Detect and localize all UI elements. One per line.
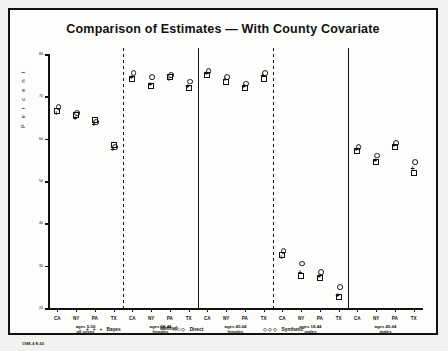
data-point-synthetic [412,159,418,165]
y-tick-label: 20 [39,306,43,310]
data-point-direct [148,83,154,89]
data-point-synthetic [168,72,174,78]
x-tick [282,308,283,312]
data-point-synthetic [112,144,118,150]
data-point-direct [373,159,379,165]
data-point-synthetic [74,110,80,116]
data-point-direct [317,275,323,281]
panel-separator [273,48,274,308]
y-tick [45,96,49,98]
footnote: 1988-4 N-65 [22,342,44,346]
x-tick [414,308,415,312]
x-tick [170,308,171,312]
x-tick-label-ny: NY [298,316,304,321]
x-tick [376,308,377,312]
chart-screenshot: Comparison of Estimates — With County Co… [0,0,448,351]
x-tick-label-ca: CA [279,316,286,321]
x-tick-label-ny: NY [148,316,154,321]
x-tick-label-pa: PA [167,316,173,321]
x-tick-label-tx: TX [411,316,417,321]
x-tick-label-ca: CA [54,316,61,321]
data-point-synthetic [374,153,380,159]
legend-label-bayes: Bayes [107,327,121,332]
legend-item-synthetic[interactable]: ◇◇◇Synthetic [263,326,303,332]
data-point-synthetic [262,70,268,76]
y-axis-label: P e r c e n t [20,69,26,128]
data-point-synthetic [206,68,212,74]
x-tick [301,308,302,312]
data-point-synthetic [224,74,230,80]
x-tick [57,308,58,312]
data-point-synthetic [131,70,137,76]
x-tick [114,308,115,312]
y-tick-label: 60 [39,137,43,141]
x-tick [76,308,77,312]
x-tick-label-tx: TX [186,316,192,321]
data-point-direct [336,294,342,300]
x-tick [264,308,265,312]
y-tick [45,266,49,268]
y-tick [45,223,49,225]
x-tick-label-ca: CA [204,316,211,321]
chart-title: Comparison of Estimates — With County Co… [10,22,436,36]
x-tick-label-pa: PA [92,316,98,321]
panel-separator [198,48,199,308]
plot-area: 20304050607080 CANYPATXCANYPATXCANYPATXC… [48,54,423,308]
data-point-synthetic [318,269,324,275]
x-tick [226,308,227,312]
x-tick [320,308,321,312]
x-tick-label-ny: NY [373,316,379,321]
data-point-synthetic [56,104,62,110]
x-tick [395,308,396,312]
x-tick-label-tx: TX [111,316,117,321]
data-point-synthetic [187,79,193,85]
x-tick-label-tx: TX [336,316,342,321]
data-point-synthetic [93,119,99,125]
data-point-direct [261,76,267,82]
panel-separator [123,48,124,308]
x-tick [132,308,133,312]
legend-label-synthetic: Synthetic [282,327,304,332]
data-point-synthetic [299,261,305,267]
x-tick [245,308,246,312]
data-point-direct [298,273,304,279]
legend-symbol-synthetic: ◇◇◇ [263,326,279,332]
legend-symbol-bayes: + + + [86,326,104,332]
x-tick [95,308,96,312]
x-tick [339,308,340,312]
panel-separator [348,48,349,308]
legend-label-direct: Direct [190,327,204,332]
chart-frame: Comparison of Estimates — With County Co… [8,8,438,335]
data-point-synthetic [149,74,155,80]
y-tick-label: 40 [39,221,43,225]
x-tick-label-ny: NY [73,316,79,321]
data-point-synthetic [281,248,287,254]
data-point-synthetic [393,140,399,146]
x-tick-label-pa: PA [392,316,398,321]
y-tick-label: 80 [39,52,43,56]
legend-item-bayes[interactable]: + + +Bayes [86,326,121,332]
y-tick [45,54,49,56]
data-point-direct [129,76,135,82]
x-tick-label-pa: PA [242,316,248,321]
y-tick-label: 70 [39,94,43,98]
legend: + + +Bayes□□◇Direct◇◇◇Synthetic [48,326,448,340]
x-tick [151,308,152,312]
y-tick [45,181,49,183]
x-tick-label-ny: NY [223,316,229,321]
y-tick-label: 30 [39,264,43,268]
x-axis [48,308,423,310]
data-point-synthetic [243,81,249,87]
data-point-direct [411,170,417,176]
y-tick [45,139,49,141]
x-tick [207,308,208,312]
y-tick-label: 50 [39,179,43,183]
x-tick-label-ca: CA [129,316,136,321]
x-tick [189,308,190,312]
x-tick [357,308,358,312]
x-tick-label-ca: CA [354,316,361,321]
x-tick-label-pa: PA [317,316,323,321]
data-point-synthetic [337,284,343,290]
x-tick-label-tx: TX [261,316,267,321]
legend-item-direct[interactable]: □□◇Direct [173,326,203,332]
